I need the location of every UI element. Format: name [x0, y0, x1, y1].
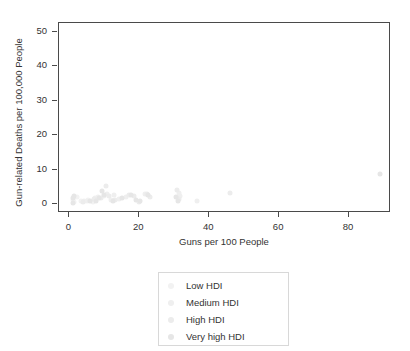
legend-marker-icon [168, 317, 174, 323]
legend: Low HDIMedium HDIHigh HDIVery high HDI [158, 272, 289, 346]
y-axis: 01020304050 [0, 0, 58, 240]
legend-item-high-hdi[interactable]: High HDI [159, 311, 288, 328]
x-tick-mark [68, 212, 69, 217]
legend-item-label: Low HDI [186, 280, 222, 291]
y-tick-mark [52, 65, 57, 66]
legend-item-very-high-hdi[interactable]: Very high HDI [159, 328, 288, 345]
data-point [137, 198, 142, 203]
y-tick-label: 30 [36, 95, 47, 105]
data-point [81, 199, 86, 204]
data-point [175, 187, 180, 192]
data-point [194, 199, 199, 204]
data-point [71, 193, 76, 198]
x-tick-label: 0 [66, 221, 71, 232]
data-point [128, 192, 133, 197]
data-point [103, 183, 108, 188]
data-point [175, 199, 180, 204]
data-point [228, 191, 233, 196]
x-axis-title: Guns per 100 People [58, 236, 390, 247]
x-tick-mark [348, 212, 349, 217]
legend-item-medium-hdi[interactable]: Medium HDI [159, 294, 288, 311]
y-tick-label: 20 [36, 129, 47, 139]
data-point [102, 192, 107, 197]
data-point [119, 196, 124, 201]
x-tick-label: 40 [203, 221, 214, 232]
data-point [87, 199, 92, 204]
data-point [97, 196, 102, 201]
legend-marker-icon [168, 283, 174, 289]
y-tick-mark [52, 100, 57, 101]
y-tick-label: 50 [36, 26, 47, 36]
data-point [146, 193, 151, 198]
data-point [377, 172, 382, 177]
plot-panel [58, 22, 390, 212]
legend-marker-icon [168, 300, 174, 306]
x-tick-label: 60 [273, 221, 284, 232]
legend-item-low-hdi[interactable]: Low HDI [159, 277, 288, 294]
y-tick-mark [52, 31, 57, 32]
plot-area [59, 23, 389, 211]
data-point [70, 201, 75, 206]
legend-item-label: Medium HDI [186, 297, 239, 308]
y-tick-mark [52, 169, 57, 170]
x-tick-mark [208, 212, 209, 217]
y-tick-mark [52, 203, 57, 204]
y-tick-label: 0 [42, 198, 47, 208]
data-point [110, 198, 115, 203]
x-tick-label: 20 [133, 221, 144, 232]
x-tick-label: 80 [343, 221, 354, 232]
x-tick-mark [278, 212, 279, 217]
y-tick-label: 10 [36, 164, 47, 174]
x-tick-mark [138, 212, 139, 217]
y-tick-mark [52, 134, 57, 135]
legend-item-label: High HDI [186, 314, 225, 325]
legend-marker-icon [168, 334, 174, 340]
legend-item-label: Very high HDI [186, 331, 245, 342]
scatter-chart-figure: Gun-related Deaths per 100,000 People 01… [0, 0, 410, 351]
y-tick-label: 40 [36, 60, 47, 70]
